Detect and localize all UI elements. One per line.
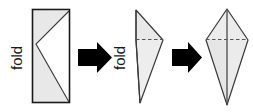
arrow-right-icon (78, 42, 112, 73)
fold-diagram-canvas: fold fold (0, 0, 253, 112)
arrow-2 (172, 42, 202, 73)
arrow-1 (78, 42, 112, 73)
step-1-fold-label: fold (8, 46, 25, 70)
arrow-right-icon (172, 42, 202, 73)
step-1-rectangle-with-flap: fold (8, 10, 70, 103)
step-2-fold-label: fold (111, 46, 128, 70)
fold-diagram: fold fold (0, 0, 253, 112)
step-2-folded-triangle: fold (111, 10, 163, 103)
step-3-kite (206, 9, 248, 105)
